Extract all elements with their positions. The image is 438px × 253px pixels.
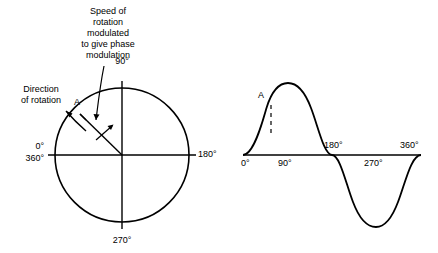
wave-label-180: 180° [324, 140, 343, 151]
phasor-radius [80, 114, 122, 155]
wave-label-270: 270° [364, 158, 383, 169]
wave-diagram-group [243, 83, 421, 227]
direction-of-rotation-note: Direction of rotation [8, 84, 74, 106]
speed-of-rotation-note: Speed of rotation modulated to give phas… [53, 6, 163, 61]
wave-point-a-label: A [258, 90, 264, 101]
direction-of-rotation-arrow [66, 111, 86, 131]
circle-label-180: 180° [198, 149, 217, 160]
wave-label-90: 90° [278, 158, 292, 169]
circle-label-270: 270° [104, 235, 140, 246]
point-a-marker [80, 114, 86, 120]
circle-point-a-label: A [74, 97, 80, 108]
wave-label-0: 0° [241, 158, 250, 169]
circle-label-360: 360° [0, 153, 44, 164]
circle-label-90: 90° [104, 56, 140, 67]
circle-label-0: 0° [2, 141, 44, 152]
wave-label-360: 360° [400, 140, 419, 151]
figure-canvas: Speed of rotation modulated to give phas… [0, 0, 438, 253]
